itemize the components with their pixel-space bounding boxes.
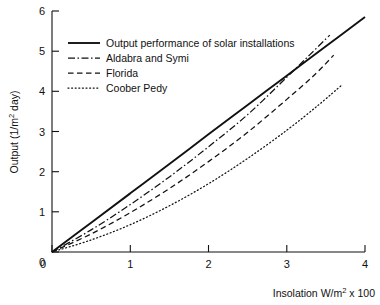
x-axis: 0 1 2 3 4 — [40, 245, 368, 270]
y-axis-title-main: Output (1/m — [8, 118, 20, 174]
y-tick-label-1: 1 — [39, 206, 45, 218]
x-axis-ticks — [52, 245, 365, 252]
series-line-dashed — [52, 55, 334, 252]
y-axis-ticks — [52, 11, 59, 252]
y-tick-label-4: 4 — [39, 85, 45, 97]
y-axis-title-tail: day) — [8, 91, 20, 114]
line-chart: 6 5 4 3 2 1 0 Output (1/m2 day) 0 — [0, 0, 380, 305]
legend-label-3: Coober Pedy — [106, 82, 168, 94]
y-tick-label-5: 5 — [39, 45, 45, 57]
legend-item-3: Coober Pedy — [68, 82, 168, 94]
legend-label-0: Output performance of solar installation… — [106, 37, 295, 49]
series-line-solid — [52, 17, 365, 252]
y-axis: 6 5 4 3 2 1 0 — [39, 5, 59, 268]
y-tick-label-2: 2 — [39, 166, 45, 178]
x-tick-label-0: 0 — [40, 258, 46, 270]
y-axis-title: Output (1/m2 day) — [7, 91, 20, 174]
series-group — [52, 17, 365, 252]
series-line-dash-dot — [52, 35, 330, 252]
y-tick-label-6: 6 — [39, 5, 45, 17]
y-tick-label-3: 3 — [39, 126, 45, 138]
legend: Output performance of solar installation… — [68, 37, 295, 94]
svg-text:Output (1/m2 day): Output (1/m2 day) — [7, 91, 20, 174]
x-axis-title-main: Insolation W/m — [273, 287, 343, 299]
x-tick-label-2: 2 — [205, 258, 211, 270]
x-tick-label-1: 1 — [127, 258, 133, 270]
x-axis-title-tail: x 100 — [346, 287, 375, 299]
legend-label-2: Florida — [106, 67, 138, 79]
chart-container: 6 5 4 3 2 1 0 Output (1/m2 day) 0 — [0, 0, 380, 305]
x-tick-label-4: 4 — [362, 258, 368, 270]
legend-item-1: Aldabra and Symi — [68, 52, 189, 64]
x-axis-title: Insolation W/m2 x 100 — [273, 286, 375, 299]
legend-item-2: Florida — [68, 67, 138, 79]
legend-item-0: Output performance of solar installation… — [68, 37, 295, 49]
x-tick-label-3: 3 — [284, 258, 290, 270]
legend-label-1: Aldabra and Symi — [106, 52, 189, 64]
